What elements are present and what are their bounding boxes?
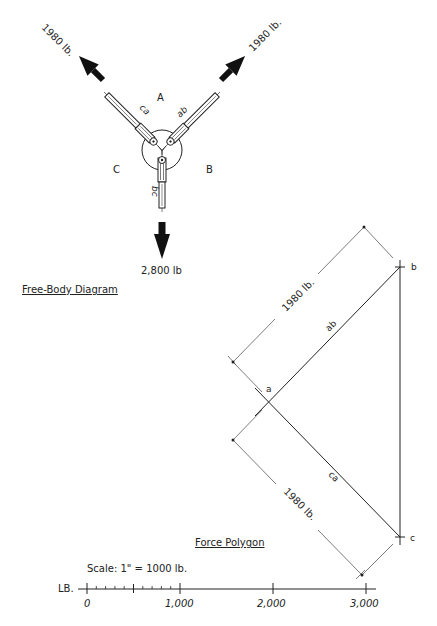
force-label-upper-right: 1980 lb. (247, 17, 284, 54)
arrow-upper-left-icon (73, 50, 108, 85)
point-label-c: c (410, 533, 415, 543)
scale-bar: Scale: 1" = 1000 lb. LB. 0 1,000 2,000 3… (58, 563, 379, 609)
member-ca (101, 89, 165, 153)
force-polygon-title: Force Polygon (195, 537, 265, 548)
dimension-lower (233, 410, 393, 579)
member-bc (158, 150, 166, 212)
segment-label-ab: ab (323, 318, 338, 333)
region-label-c: C (113, 164, 120, 175)
member-label-ca: ca (138, 102, 152, 116)
region-label-a: A (157, 92, 164, 103)
scale-tick-1000: 1,000 (165, 598, 194, 609)
arrow-down-icon (154, 222, 170, 259)
scale-unit-label: LB. (58, 583, 74, 594)
segment-ca (255, 388, 400, 537)
segment-label-ca: ca (327, 469, 341, 483)
scale-tick-0: 0 (84, 598, 90, 609)
dimension-upper (228, 227, 393, 392)
member-label-ab: ab (174, 104, 189, 119)
scale-caption: Scale: 1" = 1000 lb. (87, 563, 187, 574)
scale-tick-2000: 2,000 (257, 598, 286, 609)
force-polygon: 1980 lb. 1980 lb. ab ca a b c Force Poly… (195, 226, 417, 580)
free-body-diagram-title: Free-Body Diagram (22, 284, 118, 295)
force-label-down: 2,800 lb (141, 265, 182, 276)
region-label-b: B (206, 164, 213, 175)
member-ab (159, 89, 223, 153)
truss-joint-diagram: 1980 lb. 1980 lb. 2,800 lb A B C ca ab b… (0, 0, 437, 626)
dimension-label-upper: 1980 lb. (280, 277, 317, 314)
member-label-bc: bc (150, 186, 160, 197)
point-label-a: a (266, 384, 272, 394)
scale-tick-3000: 3,000 (350, 598, 379, 609)
segment-ab (255, 267, 400, 416)
point-label-b: b (411, 262, 417, 272)
free-body-diagram: 1980 lb. 1980 lb. 2,800 lb A B C ca ab b… (22, 17, 283, 295)
arrow-upper-right-icon (215, 50, 250, 85)
joint-center-mark (158, 146, 166, 155)
force-label-upper-left: 1980 lb. (40, 22, 77, 59)
dimension-label-lower: 1980 lb. (282, 486, 319, 523)
